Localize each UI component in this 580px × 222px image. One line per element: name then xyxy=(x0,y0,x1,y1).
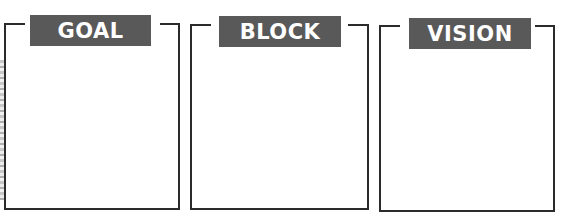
goal-panel-writing-area[interactable] xyxy=(12,51,172,202)
block-panel-writing-area[interactable] xyxy=(198,52,361,202)
goal-label-text: GOAL xyxy=(57,19,123,43)
goal-panel-top-left-border xyxy=(6,23,25,25)
block-label: BLOCK xyxy=(219,16,341,47)
block-panel-top-right-border xyxy=(348,24,367,26)
vision-label-text: VISION xyxy=(427,22,512,46)
vision-panel-writing-area[interactable] xyxy=(387,53,547,204)
goal-label: GOAL xyxy=(30,15,151,46)
vision-panel-top-right-border xyxy=(535,25,553,27)
vision-panel xyxy=(379,25,555,212)
block-label-text: BLOCK xyxy=(240,20,321,44)
block-panel-top-left-border xyxy=(192,24,211,26)
goal-panel-top-right-border xyxy=(160,23,178,25)
goal-panel xyxy=(4,23,180,210)
block-panel xyxy=(190,24,369,210)
vision-label: VISION xyxy=(409,18,531,49)
vision-panel-top-left-border xyxy=(381,25,400,27)
